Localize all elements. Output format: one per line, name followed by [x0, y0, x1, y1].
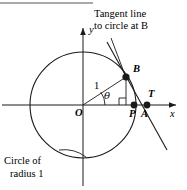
circle-caption-line2: radius 1 — [10, 168, 44, 179]
point-label-A: A — [141, 108, 148, 119]
tangent-caption-leader — [111, 38, 125, 75]
y-axis-label: y — [89, 24, 94, 35]
point-label-T: T — [148, 88, 154, 99]
y-axis-arrowhead — [80, 28, 86, 35]
tangent-line — [107, 42, 167, 150]
circle-caption-leader — [59, 150, 86, 157]
x-axis-label: x — [170, 108, 175, 119]
x-axis-arrowhead — [169, 102, 176, 108]
tangent-caption-line2: to circle at B — [94, 20, 148, 31]
circle-caption-line1: Circle of — [4, 155, 41, 166]
right-angle-marker — [119, 98, 126, 105]
point-marker-B — [122, 73, 129, 80]
origin-label: O — [75, 107, 83, 118]
geometry-figure: Tangent line to circle at B Circle of ra… — [0, 0, 187, 190]
point-label-P: P — [129, 108, 135, 119]
point-label-B: B — [133, 63, 140, 74]
tangent-caption-line1: Tangent line — [94, 8, 146, 19]
angle-label-theta: θ — [104, 91, 110, 102]
radius-length-label: 1 — [94, 80, 99, 91]
